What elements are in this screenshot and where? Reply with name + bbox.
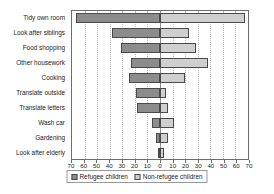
bar-row [72, 101, 248, 116]
category-label: Wash car [0, 115, 68, 130]
category-axis-labels: Tidy own roomLook after siblingsFood sho… [0, 10, 68, 160]
chart-legend: Refugee children Non-refugee children [66, 170, 207, 183]
bar-non-refugee [160, 118, 174, 128]
diverging-bar-chart: Tidy own roomLook after siblingsFood sho… [0, 0, 274, 194]
plot-area [71, 10, 249, 160]
bar-non-refugee [160, 28, 189, 38]
bar-refugee [76, 13, 160, 23]
bar-refugee [152, 118, 160, 128]
legend-label-nonrefugee: Non-refugee children [143, 172, 203, 181]
legend-swatch-refugee-icon [71, 174, 77, 180]
category-label: Translate outside [0, 85, 68, 100]
bar-non-refugee [160, 58, 208, 68]
bar-row [72, 11, 248, 26]
x-axis-tick-label: 50 [220, 161, 227, 170]
legend-swatch-nonrefugee-icon [135, 174, 141, 180]
bar-non-refugee [160, 133, 168, 143]
category-label: Look after elderly [0, 145, 68, 160]
bar-row [72, 56, 248, 71]
bar-row [72, 131, 248, 146]
bar-series-container [72, 11, 248, 159]
x-axis-tick-label: 30 [118, 161, 125, 170]
x-axis-tick-label: 40 [106, 161, 113, 170]
category-label: Translate letters [0, 100, 68, 115]
x-axis-tick-label: 70 [68, 161, 75, 170]
x-axis-tick-label: 20 [131, 161, 138, 170]
legend-label-refugee: Refugee children [79, 172, 127, 181]
bar-non-refugee [160, 88, 166, 98]
bar-refugee [137, 103, 160, 113]
x-axis-tick-label: 10 [144, 161, 151, 170]
bar-refugee [121, 43, 160, 53]
bar-row [72, 41, 248, 56]
category-label: Tidy own room [0, 10, 68, 25]
bar-non-refugee [160, 13, 245, 23]
bar-refugee [131, 58, 160, 68]
x-axis-tick-label: 70 [246, 161, 253, 170]
category-label: Food shopping [0, 40, 68, 55]
bar-non-refugee [160, 43, 196, 53]
category-label: Cooking [0, 70, 68, 85]
x-axis-tick-label: 60 [80, 161, 87, 170]
bar-refugee [136, 88, 160, 98]
x-axis-tick-label: 0 [158, 161, 161, 170]
bar-row [72, 146, 248, 161]
x-axis-tick-label: 60 [233, 161, 240, 170]
x-axis-tick-label: 40 [207, 161, 214, 170]
bar-refugee [112, 28, 160, 38]
bar-non-refugee [160, 148, 164, 158]
bar-row [72, 116, 248, 131]
legend-item-refugee: Refugee children [71, 172, 127, 181]
x-axis-tick-label: 30 [195, 161, 202, 170]
legend-item-nonrefugee: Non-refugee children [135, 172, 203, 181]
bar-row [72, 26, 248, 41]
category-label: Gardening [0, 130, 68, 145]
x-axis-tick-label: 10 [169, 161, 176, 170]
x-axis-tick-label: 20 [182, 161, 189, 170]
bar-row [72, 86, 248, 101]
x-axis-tick-label: 50 [93, 161, 100, 170]
bar-non-refugee [160, 103, 168, 113]
bar-non-refugee [160, 73, 185, 83]
category-label: Other housework [0, 55, 68, 70]
category-label: Look after siblings [0, 25, 68, 40]
bar-refugee [129, 73, 160, 83]
bar-row [72, 71, 248, 86]
